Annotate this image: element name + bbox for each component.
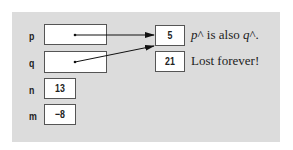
arrow-p-to-5 (74, 34, 154, 37)
arrow-q-to-5 (74, 46, 154, 63)
pointer-arrows (0, 0, 293, 150)
